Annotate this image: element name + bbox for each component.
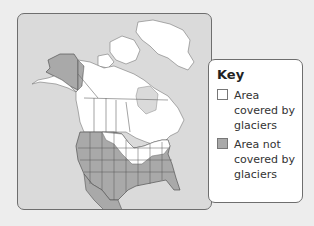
key-label-glaciated: Area covered by glaciers — [234, 88, 296, 133]
key-item-unglaciated: Area not covered by glaciers — [217, 137, 296, 182]
arctic-islands — [110, 36, 140, 64]
map-panel — [17, 13, 212, 210]
key-title: Key — [217, 67, 296, 82]
map-key: Key Area covered by glaciers Area not co… — [208, 59, 303, 203]
key-item-glaciated: Area covered by glaciers — [217, 88, 296, 133]
gray-swatch-icon — [217, 138, 228, 149]
north-america-map — [18, 14, 212, 210]
greenland-landmass — [136, 20, 194, 70]
key-label-unglaciated: Area not covered by glaciers — [234, 137, 296, 182]
arctic-island — [98, 54, 114, 68]
white-swatch-icon — [217, 89, 228, 100]
